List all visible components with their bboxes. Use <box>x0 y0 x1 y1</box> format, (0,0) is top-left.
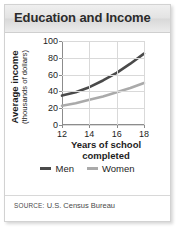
y-tick-mark <box>59 41 62 42</box>
gridline-vertical <box>89 41 90 125</box>
legend-label: Women <box>102 163 135 174</box>
gridline-horizontal <box>62 41 144 42</box>
legend-swatch-icon <box>40 167 51 170</box>
series-line-women <box>62 83 144 106</box>
chart-area: Average income (thousands of dollars) 02… <box>5 33 170 189</box>
x-tick-label: 18 <box>139 129 149 139</box>
gridline-horizontal <box>62 75 144 76</box>
gridline-horizontal <box>62 125 144 126</box>
legend-swatch-icon <box>87 167 98 170</box>
y-tick-label: 40 <box>34 86 58 96</box>
x-tick-mark <box>89 125 90 128</box>
chart-card: Education and Income Average income (tho… <box>4 4 171 222</box>
gridline-horizontal <box>62 58 144 59</box>
gridline-vertical <box>117 41 118 125</box>
x-tick-mark <box>117 125 118 128</box>
y-tick-label: 60 <box>34 70 58 80</box>
x-tick-label: 12 <box>57 129 67 139</box>
y-axis-label-sub: (thousands of dollars) <box>20 35 29 139</box>
x-tick-mark <box>62 125 63 128</box>
y-tick-label: 80 <box>34 53 58 63</box>
y-axis-label-main: Average income <box>9 35 20 139</box>
y-tick-label: 20 <box>34 103 58 113</box>
gridline-vertical <box>144 41 145 125</box>
y-tick-label: 100 <box>34 36 58 46</box>
x-tick-mark <box>144 125 145 128</box>
legend-item-women[interactable]: Women <box>87 163 135 174</box>
x-tick-label: 14 <box>84 129 94 139</box>
y-tick-mark <box>59 58 62 59</box>
x-tick-label: 16 <box>112 129 122 139</box>
y-tick-mark <box>59 91 62 92</box>
y-tick-mark <box>59 108 62 109</box>
source-divider <box>5 195 170 196</box>
source-keyword: SOURCE: <box>14 202 45 209</box>
gridline-horizontal <box>62 108 144 109</box>
series-lines <box>62 41 144 125</box>
source-note: SOURCE: U.S. Census Bureau <box>14 201 115 210</box>
chart-legend: MenWomen <box>5 163 170 174</box>
legend-item-men[interactable]: Men <box>40 163 73 174</box>
x-axis-label: Years of school completed <box>51 139 161 161</box>
y-tick-label: 0 <box>34 120 58 130</box>
y-tick-mark <box>59 75 62 76</box>
plot-region: 02040608010012141618 <box>62 41 144 125</box>
card-header: Education and Income <box>5 5 170 33</box>
gridline-horizontal <box>62 91 144 92</box>
page-title: Education and Income <box>14 10 151 25</box>
y-axis-label: Average income (thousands of dollars) <box>9 35 29 139</box>
legend-label: Men <box>55 163 73 174</box>
source-text: U.S. Census Bureau <box>47 201 115 210</box>
